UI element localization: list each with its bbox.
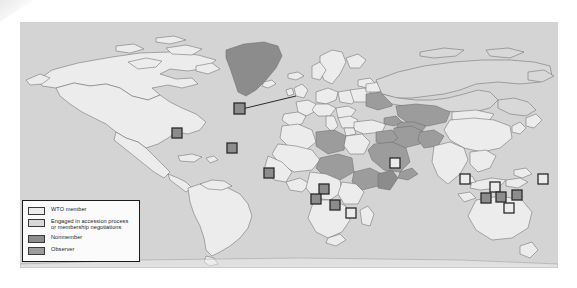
legend-swatch-accession — [28, 219, 45, 227]
legend-label-accession: Engaged in accession process or membersh… — [51, 218, 128, 231]
indian-ocean-marker-1 — [311, 194, 321, 204]
legend-swatch-nonmember — [28, 235, 45, 243]
caribbean-marker — [172, 128, 182, 138]
wto-map-figure: .c{stroke:#6e6e6e;stroke-width:.55;strok… — [0, 0, 577, 288]
pacific-marker-4 — [496, 192, 506, 202]
pacific-marker-2 — [490, 182, 500, 192]
pacific-marker-5 — [512, 190, 522, 200]
legend-item-nonmember: Nonmember — [28, 234, 135, 243]
legend-label-wto-member: WTO member — [51, 206, 87, 212]
legend-label-observer: Observer — [51, 246, 74, 252]
pacific-marker-1 — [460, 174, 470, 184]
legend-item-wto-member: WTO member — [28, 206, 135, 215]
pacific-marker-6 — [504, 203, 514, 213]
gulf-guinea-marker — [319, 184, 329, 194]
legend-item-accession: Engaged in accession process or membersh… — [28, 218, 135, 231]
west-africa-marker — [264, 168, 274, 178]
page-curl-top-left — [0, 0, 34, 22]
atlantic-marker — [227, 143, 237, 153]
indian-ocean-marker-2 — [330, 200, 340, 210]
legend-swatch-observer — [28, 247, 45, 255]
indian-ocean-marker-4 — [390, 158, 400, 168]
legend-label-nonmember: Nonmember — [51, 234, 82, 240]
legend-item-observer: Observer — [28, 246, 135, 255]
europe-callout-marker — [234, 103, 245, 114]
map-legend: WTO member Engaged in accession process … — [22, 200, 140, 262]
legend-swatch-wto-member — [28, 207, 45, 215]
pacific-marker-3 — [481, 193, 491, 203]
indian-ocean-marker-3 — [346, 208, 356, 218]
pacific-marker-7 — [538, 174, 548, 184]
